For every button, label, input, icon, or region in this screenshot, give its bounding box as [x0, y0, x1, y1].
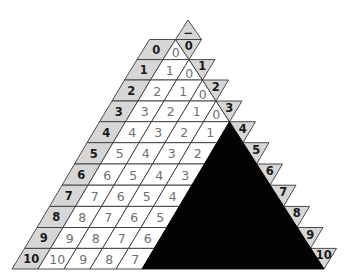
- row-header-label: 4: [102, 126, 110, 140]
- value-cell-text: 2: [167, 104, 175, 119]
- top-marker-label: −: [183, 26, 193, 40]
- zero-cell-text: 0: [185, 66, 193, 81]
- value-cell-text: 5: [116, 146, 124, 161]
- value-cell-text: 4: [169, 189, 177, 204]
- zero-cell-text: 0: [212, 107, 220, 122]
- row-header-label: 6: [77, 168, 85, 182]
- value-cell-text: 9: [79, 252, 87, 267]
- difference-triangle-diagram: −000110122102332103443214554325665436776…: [0, 0, 350, 279]
- value-cell-text: 2: [194, 146, 202, 161]
- column-header-label: 4: [239, 122, 247, 136]
- column-header-label: 1: [198, 59, 206, 73]
- value-cell-text: 6: [117, 189, 125, 204]
- column-header-label: 2: [212, 80, 220, 94]
- column-header-label: 9: [306, 228, 314, 242]
- row-header-label: 1: [140, 63, 148, 77]
- column-header-label: 5: [252, 143, 260, 157]
- value-cell-text: 5: [143, 189, 151, 204]
- column-header-label: 6: [266, 164, 274, 178]
- value-cell-text: 7: [91, 189, 99, 204]
- zero-cell-text: 0: [172, 45, 180, 60]
- value-cell-text: 1: [193, 104, 201, 119]
- value-cell-text: 6: [103, 168, 111, 183]
- value-cell-text: 4: [128, 125, 136, 140]
- value-cell-text: 5: [129, 168, 137, 183]
- value-cell-text: 5: [156, 210, 164, 225]
- zero-cell-text: 0: [199, 87, 207, 102]
- row-header-label: 10: [23, 252, 39, 266]
- column-header-label: 7: [279, 185, 287, 199]
- row-header-label: 7: [65, 189, 73, 203]
- row-header-label: 2: [127, 84, 135, 98]
- value-cell-text: 9: [66, 231, 74, 246]
- row-header-label: 5: [90, 147, 98, 161]
- value-cell-text: 8: [105, 252, 113, 267]
- row-header-label: 8: [52, 210, 60, 224]
- value-cell-text: 2: [180, 125, 188, 140]
- value-cell-text: 7: [104, 210, 112, 225]
- value-cell-text: 3: [168, 146, 176, 161]
- value-cell-text: 6: [144, 231, 152, 246]
- row-header-label: 0: [152, 43, 160, 57]
- row-header-label: 9: [40, 231, 48, 245]
- value-cell-text: 3: [141, 104, 149, 119]
- value-cell-text: 10: [49, 252, 65, 267]
- value-cell-text: 4: [142, 146, 150, 161]
- column-header-label: 3: [225, 101, 233, 115]
- value-cell-text: 6: [130, 210, 138, 225]
- value-cell-text: 1: [206, 125, 214, 140]
- value-cell-text: 1: [179, 84, 187, 99]
- column-header-label: 0: [185, 39, 193, 53]
- value-cell-text: 2: [153, 84, 161, 99]
- value-cell-text: 7: [118, 231, 126, 246]
- row-header-label: 3: [115, 105, 123, 119]
- value-cell-text: 7: [131, 252, 139, 267]
- value-cell-text: 3: [154, 125, 162, 140]
- value-cell-text: 1: [166, 63, 174, 78]
- column-header-label: 8: [293, 206, 301, 220]
- column-header-label: 10: [316, 248, 332, 262]
- value-cell-text: 3: [181, 168, 189, 183]
- value-cell-text: 8: [78, 210, 86, 225]
- value-cell-text: 4: [155, 168, 163, 183]
- value-cell-text: 8: [92, 231, 100, 246]
